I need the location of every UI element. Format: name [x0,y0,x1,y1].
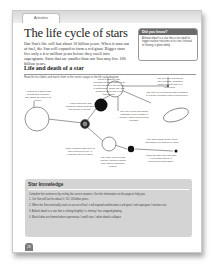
red-supergiant [95,99,108,112]
label-main-sequence: A main sequence star shines by fusing hy… [66,103,94,112]
label-remnant: The core of the supergiant collapses; he… [117,111,151,123]
label-massive-star: When a massive star hundreds of times bi… [93,79,125,96]
label-red-giant: When a smaller star like our Sun runs ou… [65,148,95,157]
star-knowledge-heading: Star knowledge [25,179,192,187]
page-number: 28 [25,243,33,251]
label-supernova: The core of a supergiant star collapses … [146,92,188,98]
black-dwarf [175,150,178,153]
red-giant-circle [102,137,116,151]
label-black-dwarf: When the star is so cool that it no long… [145,155,177,164]
question-2[interactable]: 2. When the Sun eventually starts to run… [25,204,192,207]
question-1[interactable]: 1. Our Sun will last for about 5 / 10 / … [25,198,192,201]
supernova-remnant [162,105,190,124]
question-4[interactable]: 4. Black holes are formed when supernova… [25,216,192,219]
label-planetary-nebula: The outer layers of gas drift off, leavi… [99,157,127,169]
label-nebula: A nebula is a giant cloud of dust and hy… [25,91,51,103]
label-white-dwarf: The white dwarf slowly cools and fades o… [145,139,179,145]
white-dwarf [128,146,134,152]
star-knowledge-instructions: Complete the sentences by circling the c… [25,193,192,196]
star-knowledge-divider [28,189,189,190]
nebula-circle [25,107,49,131]
worksheet-page: Activities The life cycle of stars Our S… [12,10,202,253]
label-neutron-star: The core of a supernova may collapse, fo… [156,78,184,90]
star-knowledge-panel: Star knowledge Complete the sentences by… [25,179,192,237]
question-3[interactable]: 3. A black dwarf is a star that is shini… [25,210,192,213]
